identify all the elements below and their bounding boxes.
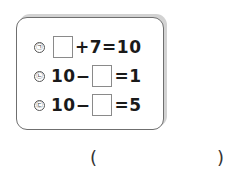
label-giyeok: ㉠ (34, 42, 45, 53)
answer-area: ( ) (88, 145, 230, 171)
blank-box-a[interactable] (53, 36, 73, 58)
equation-b-lead: 10− (51, 68, 90, 85)
label-nieun: ㉡ (34, 71, 45, 82)
equation-c-tail: =5 (114, 97, 141, 114)
blank-box-c[interactable] (92, 94, 112, 116)
equation-box: ㉠ +7=10 ㉡ 10− =1 ㉢ 10− =5 (16, 17, 164, 130)
equation-c-lead: 10− (51, 97, 90, 114)
equation-b-tail: =1 (114, 68, 141, 85)
equation-row-b: ㉡ 10− =1 (34, 63, 141, 89)
blank-box-b[interactable] (92, 65, 112, 87)
equation-row-a: ㉠ +7=10 (34, 34, 141, 60)
equation-row-c: ㉢ 10− =5 (34, 92, 141, 118)
answer-blank[interactable] (104, 145, 210, 171)
close-paren: ) (217, 145, 224, 171)
equation-a-tail: +7=10 (75, 39, 141, 56)
label-digeut: ㉢ (34, 100, 45, 111)
open-paren: ( (90, 145, 97, 171)
